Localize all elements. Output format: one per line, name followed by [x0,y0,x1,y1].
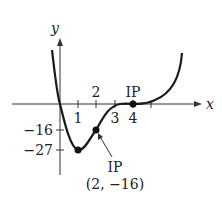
minimum-point [75,147,82,154]
y-axis-label: y [50,20,60,36]
function-curve [52,50,182,150]
x-tick-label-2: 2 [92,84,101,100]
x-axis-arrow-icon [194,101,202,107]
ip-label-bottom: IP [108,159,123,175]
inflection-point-2-neg16 [93,127,100,134]
ip-label-top: IP [126,84,141,100]
x-tick-label-4: 4 [129,110,138,126]
function-graph: y x 1 2 3 4 −16 −27 IP IP (2, −16) [0,0,222,201]
inflection-point-4-0 [130,101,137,108]
y-axis-arrow-icon [57,38,63,46]
y-tick-label-neg27: −27 [23,142,53,158]
y-tick-label-neg16: −16 [23,122,53,138]
ip-coordinate-label: (2, −16) [86,176,144,192]
ip-annotation-arrow [99,135,112,157]
x-tick-label-3: 3 [111,110,120,126]
x-tick-label-1: 1 [74,110,83,126]
ip-annotation-arrowhead-icon [98,133,103,140]
x-axis-label: x [206,96,214,112]
